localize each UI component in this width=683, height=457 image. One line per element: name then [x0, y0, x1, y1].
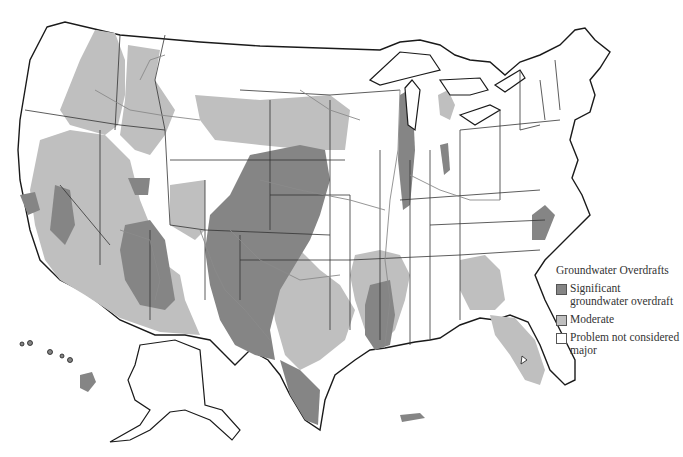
legend-title: Groundwater Overdrafts — [556, 264, 681, 277]
alaska-outline — [110, 340, 240, 442]
hawaii-islands — [20, 341, 73, 363]
legend-label: Moderate — [570, 313, 614, 326]
swatch-significant-icon — [556, 284, 567, 295]
swatch-moderate-icon — [556, 315, 567, 326]
groundwater-map — [0, 0, 683, 457]
legend-item-moderate: Moderate — [556, 313, 681, 326]
legend-label: Significant groundwater overdraft — [570, 282, 681, 308]
legend-item-not-major: Problem not considered major — [556, 331, 681, 357]
legend-item-significant: Significant groundwater overdraft — [556, 282, 681, 308]
swatch-not-major-icon — [556, 333, 567, 344]
map-legend: Groundwater Overdrafts Significant groun… — [556, 264, 681, 362]
legend-label: Problem not considered major — [570, 331, 681, 357]
